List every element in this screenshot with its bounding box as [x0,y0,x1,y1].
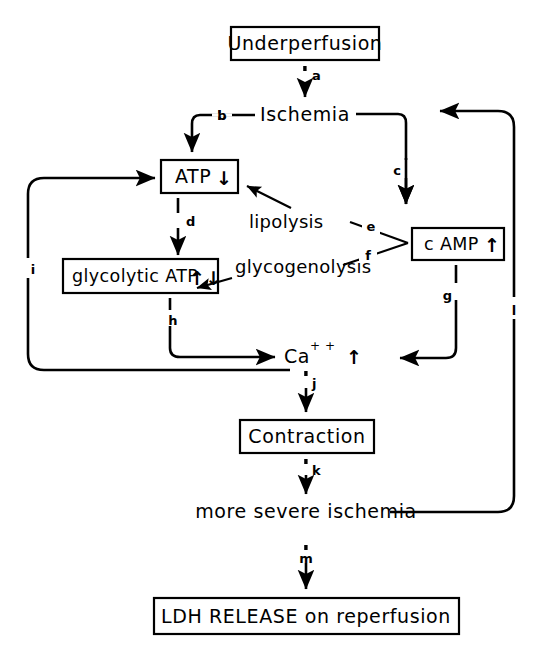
node-camp: c AMP ↑ [412,228,504,260]
edge-b-label-top: b [217,108,226,123]
flow-diagram-canvas: Underperfusion a Ischemia b b c ATP ↓ d … [0,0,546,656]
node-glycolytic-atp-trend-icon: ↑↓ [189,267,222,289]
node-calcium-label: Ca [284,345,310,367]
edge-g: g [400,265,466,358]
edge-lipolysis-to-atp [247,186,291,208]
edge-g-label: g [443,288,452,303]
node-ischemia: Ischemia [260,103,350,125]
node-more-severe-ischemia: more severe ischemia [195,500,417,522]
edge-a: a [303,66,321,97]
edge-e: e [350,218,408,243]
edge-c-label: c [393,163,401,178]
edge-d: d [178,198,195,255]
node-calcium-trend-icon: ↑ [346,346,363,368]
node-camp-trend-icon: ↑ [484,234,501,256]
edge-j-label: j [311,376,316,391]
node-ischemia-label: Ischemia [260,103,350,125]
edge-k: k [304,459,321,494]
node-atp-trend-icon: ↓ [216,167,233,189]
node-contraction-label: Contraction [248,425,365,447]
node-lipolysis: lipolysis [249,211,324,232]
node-camp-label: c AMP [424,234,479,254]
edge-l-label: l [512,303,516,318]
node-ldh-release: LDH RELEASE on reperfusion [154,598,459,634]
edge-k-label: k [312,463,321,478]
edge-b: b b [192,108,255,152]
node-glycogenolysis: glycogenolysis [235,256,372,277]
edge-f: f [343,243,408,265]
edge-a-label: a [312,68,321,83]
node-atp-label: ATP [175,165,211,187]
diagram-svg: Underperfusion a Ischemia b b c ATP ↓ d … [0,0,546,656]
edge-f-label: f [365,248,371,263]
node-calcium: Ca + + ↑ [284,339,363,368]
node-underperfusion-label: Underperfusion [227,32,382,54]
node-underperfusion: Underperfusion [227,27,382,60]
edge-h: h [163,298,275,357]
edge-j: j [304,371,316,412]
edge-h-label: h [168,313,177,328]
edge-e-label: e [367,219,376,234]
edge-i-label: i [31,262,35,277]
node-glycolytic-atp-label: glycolytic ATP [72,266,198,286]
edge-c: c [356,114,416,204]
node-atp: ATP ↓ [161,160,238,193]
node-glycolytic-atp: glycolytic ATP ↑↓ [63,259,222,293]
edge-m: m [299,545,313,589]
node-more-severe-ischemia-label: more severe ischemia [195,500,417,522]
node-lipolysis-label: lipolysis [249,211,324,232]
node-contraction: Contraction [240,420,374,453]
node-calcium-superscript: + + [310,339,336,353]
node-glycogenolysis-label: glycogenolysis [235,256,372,277]
edge-d-label: d [186,214,195,229]
node-ldh-release-label: LDH RELEASE on reperfusion [161,605,451,627]
